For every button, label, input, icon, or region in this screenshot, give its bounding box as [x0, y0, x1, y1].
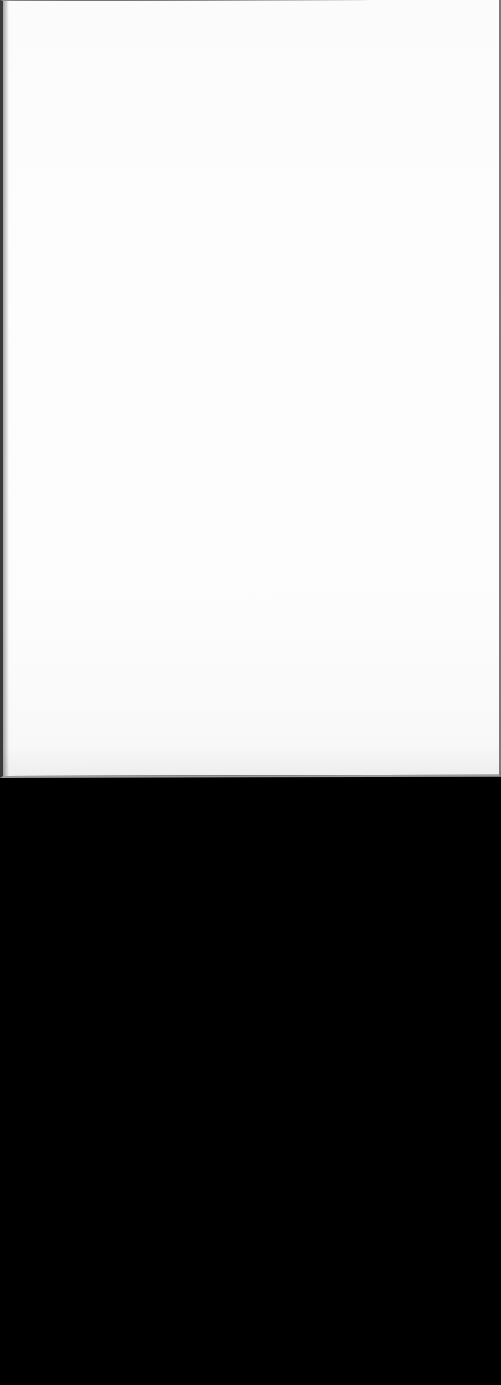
paper-left-edge-shadow	[3, 1, 9, 776]
scanner-background	[0, 778, 501, 1385]
scan-canvas	[0, 0, 501, 1385]
page-text	[3, 0, 499, 1]
paper-sheet	[0, 0, 501, 778]
paper-bottom-shade	[3, 745, 499, 776]
